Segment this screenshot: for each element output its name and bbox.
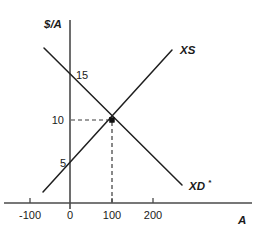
equilibrium-point-marker [110, 118, 115, 123]
supply-intercept-label: 5 [60, 157, 66, 169]
demand-intercept-label: 15 [76, 69, 88, 81]
x-tick-label-0: 0 [67, 209, 73, 221]
y-axis-title: $/A [43, 18, 62, 30]
x-tick-label-100: 100 [103, 209, 121, 221]
supply-curve-label: XS [179, 44, 196, 56]
chart-canvas: $/A A -100 0 100 200 15 10 5 XS XD * [0, 0, 263, 233]
x-axis-title: A [237, 214, 246, 226]
equilibrium-price-label: 10 [52, 114, 64, 126]
supply-demand-chart: $/A A -100 0 100 200 15 10 5 XS XD * [0, 0, 263, 233]
x-tick-label-200: 200 [144, 209, 162, 221]
demand-curve-star-label: * [208, 178, 212, 187]
demand-curve-label: XD [188, 180, 205, 192]
x-tick-label-minus100: -100 [19, 209, 41, 221]
